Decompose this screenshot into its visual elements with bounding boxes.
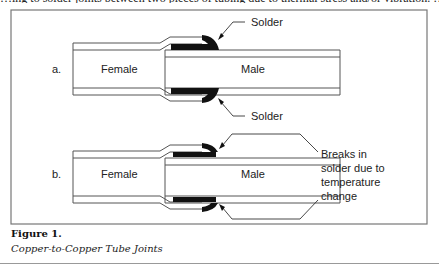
svg-text:change: change (321, 190, 357, 202)
female-label-a: Female (101, 63, 138, 75)
figure-caption-subtitle: Copper-to-Copper Tube Joints (11, 243, 163, 254)
figure-caption-title: Figure 1. (11, 228, 62, 239)
tube-joint-diagram: Solder Solder a. Female Male b. Female M… (0, 0, 439, 268)
male-label-a: Male (241, 63, 265, 75)
solder-bottom-label: Solder (251, 110, 283, 122)
divider (0, 263, 439, 264)
male-label-b: Male (241, 168, 265, 180)
panel-b-label: b. (52, 168, 61, 180)
svg-text:temperature: temperature (321, 176, 380, 188)
solder-top-label: Solder (251, 16, 283, 28)
female-label-b: Female (101, 168, 138, 180)
svg-text:solder due to: solder due to (321, 162, 385, 174)
panel-a-label: a. (52, 63, 61, 75)
svg-text:Breaks in: Breaks in (321, 148, 367, 160)
